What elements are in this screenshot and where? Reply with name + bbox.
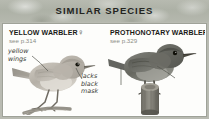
- similar-species-panel: SIMILAR SPECIES YELLOW WARBLER♀ see p.31…: [0, 0, 209, 119]
- bird-illustration-yellow-warbler: [4, 25, 105, 116]
- callout-yellow-wings: yellow wings: [8, 48, 28, 63]
- species-card-yellow-warbler[interactable]: YELLOW WARBLER♀ see p.314: [4, 25, 105, 115]
- species-card-prothonotary-warbler[interactable]: PROTHONOTARY WARBLER♀ see p.329: [105, 25, 206, 115]
- bird-illustration-prothonotary-warbler: [105, 25, 206, 116]
- page-title: SIMILAR SPECIES: [0, 4, 209, 17]
- comparison-plate: YELLOW WARBLER♀ see p.314: [3, 24, 206, 116]
- panel-header-band: SIMILAR SPECIES: [0, 0, 209, 22]
- callout-lacks-black-mask: lacks black mask: [81, 73, 98, 96]
